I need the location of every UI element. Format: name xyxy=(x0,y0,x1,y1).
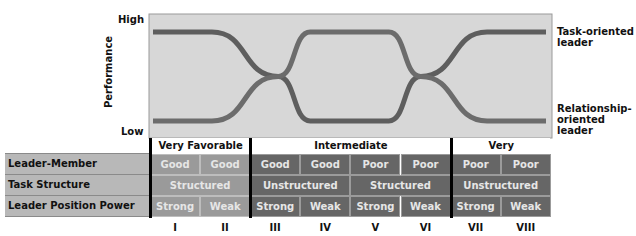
table-cell: Unstructured xyxy=(451,175,551,196)
table-cell: Structured xyxy=(150,175,250,196)
situation-band-very-unfavorable: Very Unfavorable xyxy=(453,138,550,153)
y-tick-high: High xyxy=(118,14,144,25)
band-divider xyxy=(249,138,252,218)
table-cell: Weak xyxy=(200,196,250,217)
table-cell: Strong xyxy=(451,196,501,217)
situation-numeral-vi: VI xyxy=(401,222,451,233)
table-cell: Poor xyxy=(451,154,501,175)
y-axis-label: Performance xyxy=(103,36,114,108)
table-cell: Good xyxy=(200,154,250,175)
table-cell: Structured xyxy=(350,175,450,196)
situation-numeral-iii: III xyxy=(250,222,300,233)
table-cell: Poor xyxy=(501,154,551,175)
situation-numeral-viii: VIII xyxy=(501,222,551,233)
situation-numeral-iv: IV xyxy=(300,222,350,233)
situation-numeral-i: I xyxy=(150,222,200,233)
table-cell: Strong xyxy=(350,196,400,217)
legend-task-line-1: Task-oriented xyxy=(557,26,634,37)
table-cell: Good xyxy=(250,154,300,175)
situation-band-intermediate: Intermediate xyxy=(252,138,449,153)
table-cell: Weak xyxy=(401,196,451,217)
situation-numeral-vii: VII xyxy=(451,222,501,233)
table-cell: Strong xyxy=(150,196,200,217)
legend-rel-line-3: leader xyxy=(557,125,632,136)
row-label-task-structure: Task Structure xyxy=(5,174,149,196)
legend-task-line-2: leader xyxy=(557,37,634,48)
legend-rel-line-1: Relationship- xyxy=(557,103,632,114)
table-cell: Poor xyxy=(401,154,451,175)
legend-task-oriented: Task-oriented leader xyxy=(557,26,634,48)
row-label-leader-position-power: Leader Position Power xyxy=(5,195,149,217)
table-cell: Unstructured xyxy=(250,175,350,196)
row-label-leader-member-relations: Leader-Member Relations xyxy=(5,153,149,175)
legend-rel-line-2: oriented xyxy=(557,114,632,125)
band-divider xyxy=(149,138,152,218)
table-cell: Weak xyxy=(300,196,350,217)
table-cell: Poor xyxy=(350,154,400,175)
table-cell: Weak xyxy=(501,196,551,217)
table-cell: Strong xyxy=(250,196,300,217)
band-divider xyxy=(450,138,453,218)
table-cell: Good xyxy=(150,154,200,175)
situation-numeral-ii: II xyxy=(200,222,250,233)
y-tick-low: Low xyxy=(121,126,143,137)
situation-numeral-v: V xyxy=(350,222,400,233)
situation-band-very-favorable: Very Favorable xyxy=(152,138,249,153)
table-cell: Good xyxy=(300,154,350,175)
legend-relationship-oriented: Relationship- oriented leader xyxy=(557,103,632,136)
